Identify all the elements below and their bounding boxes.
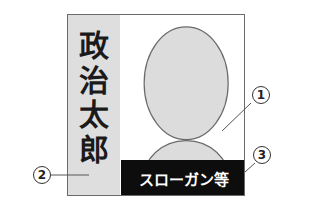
head-shape: [144, 27, 228, 140]
callout-1: ①1: [252, 86, 270, 104]
callout-3: ③3: [253, 146, 271, 164]
leader-line-3: [245, 163, 255, 172]
slogan-text: スローガン等: [139, 168, 229, 189]
slogan-bar: スローガン等: [121, 160, 245, 196]
election-poster: 政 治 太 郎 スローガン等: [67, 14, 245, 196]
callout-2: ②2: [33, 166, 51, 184]
